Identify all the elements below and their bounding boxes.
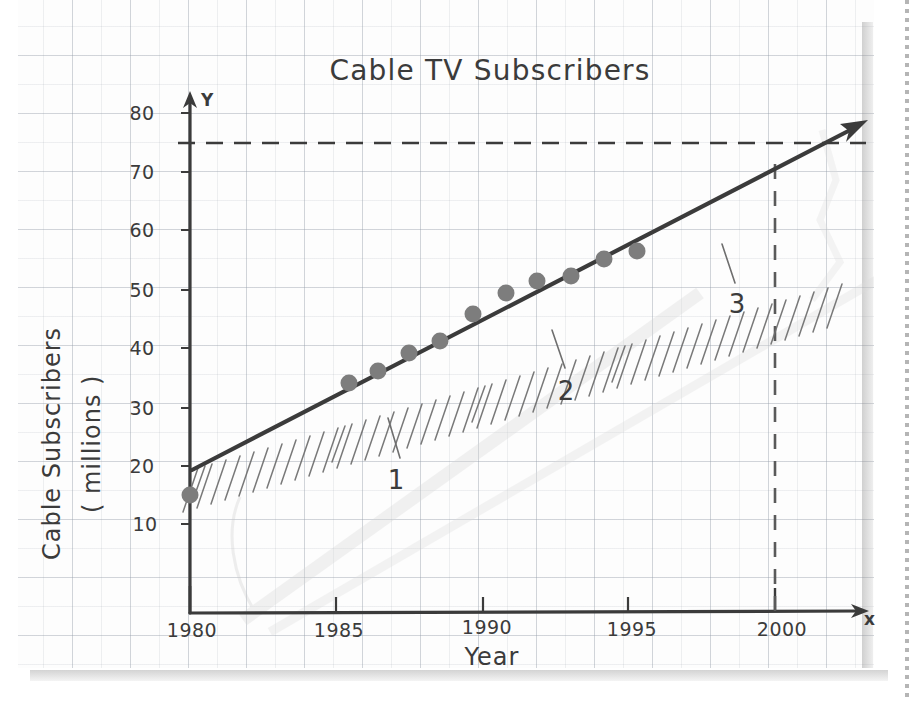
- data-point: [498, 285, 515, 302]
- data-point: [465, 306, 482, 323]
- y-tick-label-70: 70: [129, 161, 154, 183]
- chart-svg: Y x 80 70 60 50 40 30 20 10 1980: [0, 0, 916, 702]
- x-tick-label-1980: 1980: [167, 619, 217, 641]
- data-point: [563, 268, 580, 285]
- x-axis-line: [190, 611, 860, 613]
- chart-page: Y x 80 70 60 50 40 30 20 10 1980: [0, 0, 916, 702]
- data-point: [432, 333, 449, 350]
- y-axis-units-label: ( millions ): [78, 375, 106, 513]
- x-tick-label-1990: 1990: [462, 616, 512, 638]
- annotation-3: 3: [729, 289, 746, 319]
- data-point: [629, 243, 646, 260]
- x-axis-letter: x: [864, 609, 875, 629]
- y-tick-label-40: 40: [129, 337, 154, 359]
- x-axis-label: Year: [464, 643, 520, 671]
- data-point: [401, 345, 418, 362]
- axes: [183, 91, 869, 618]
- y-tick-label-30: 30: [129, 397, 154, 419]
- y-tick-label-50: 50: [129, 279, 154, 301]
- x-tick-label-2000: 2000: [757, 618, 807, 640]
- data-point: [529, 273, 546, 290]
- annotation-2: 2: [558, 376, 575, 406]
- y-tick-label-20: 20: [129, 455, 154, 477]
- data-point: [341, 375, 358, 392]
- data-point: [596, 251, 613, 268]
- x-tick-label-1995: 1995: [607, 618, 657, 640]
- y-tick-label-80: 80: [129, 102, 154, 124]
- data-points: [182, 243, 646, 504]
- y-tick-label-10: 10: [132, 513, 157, 535]
- y-axis-label: Cable Subscribers: [38, 327, 66, 560]
- chart-title: Cable TV Subscribers: [329, 54, 650, 87]
- data-point: [182, 487, 199, 504]
- y-axis-letter: Y: [200, 90, 214, 110]
- x-tick-label-1985: 1985: [314, 619, 364, 641]
- y-tick-label-60: 60: [129, 219, 154, 241]
- annotation-1: 1: [388, 465, 405, 495]
- data-point: [370, 363, 387, 380]
